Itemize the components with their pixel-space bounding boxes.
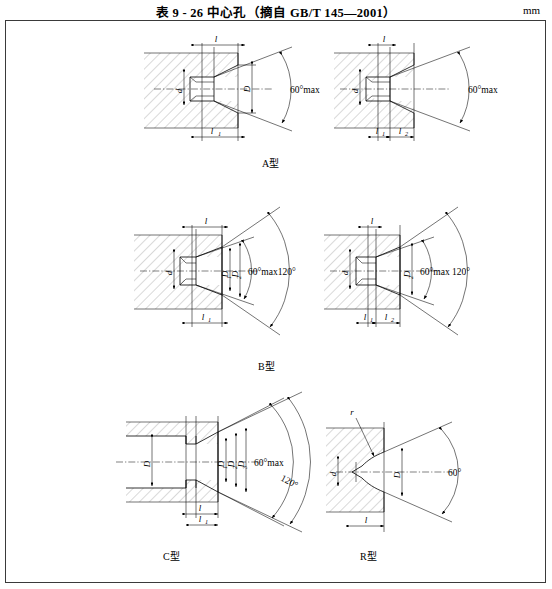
figure-b-left: l l 1 d D 1 D 2 60°max120° — [130, 205, 340, 350]
dimension-l-top-a-left: l — [195, 34, 245, 45]
figure-b-right: l l 1 l 2 d D 2 60°max 120° — [320, 205, 530, 350]
dimension-D2-b-left: D 2 — [230, 247, 242, 297]
dim-sub-l1: 1 — [208, 316, 211, 323]
dim-sub-l1: 1 — [205, 518, 208, 525]
dimension-l1-c-left: l 1 — [190, 514, 218, 525]
dim-sub-l1: 1 — [370, 316, 373, 323]
dimension-l-top-b-right: l — [362, 216, 382, 227]
dim-label-l2: l — [385, 312, 388, 322]
angle-label-c-main: 60°max — [254, 458, 284, 468]
page-title: 表 9 - 26 中心孔（摘自 GB/T 145—2001） — [0, 2, 552, 21]
dim-label-l-top: l — [215, 34, 218, 44]
material-hatching-a-right — [334, 53, 414, 128]
dim-sub-D2: 2 — [235, 276, 242, 279]
table-title-row: 表 9 - 26 中心孔（摘自 GB/T 145—2001） mm — [0, 2, 552, 20]
dim-sub-l1: 1 — [218, 130, 221, 137]
caption-b: B型 — [258, 358, 275, 373]
dim-sub-l2: 2 — [405, 130, 408, 137]
dim-label-l1: l — [199, 514, 202, 524]
angle-label-b-right: 60°max 120° — [420, 267, 470, 277]
dim-label-l-top: l — [383, 34, 386, 44]
dim-label-d: d — [328, 471, 338, 476]
dim-label-d: d — [340, 270, 350, 275]
caption-c: C型 — [163, 548, 180, 563]
dim-sub-l1: 1 — [382, 130, 385, 137]
material-hatching-b-left — [134, 235, 222, 309]
dim-sub-l2: 2 — [391, 316, 394, 323]
angle-label-a-right: 60°max — [468, 85, 498, 95]
dim-label-r: r — [350, 407, 354, 417]
dim-label-D: D — [142, 460, 152, 468]
figure-a-right: l l 1 l 2 d 60°max — [330, 33, 520, 161]
dimension-D2-b-right: D 2 — [402, 247, 414, 295]
angle-label-a-left: 60°max — [290, 85, 320, 95]
unit-label: mm — [523, 4, 540, 16]
dim-label-D: D — [242, 85, 252, 93]
dimension-l-c-left: l — [186, 503, 218, 514]
dimension-D-c-left: D — [142, 438, 152, 486]
dimension-D3-c-left: D 3 — [236, 432, 248, 492]
dim-label-l: l — [199, 503, 202, 513]
figure-a-left: l l 1 d D 60°max — [140, 33, 330, 161]
dimension-l1-b-left: l 1 — [186, 312, 228, 323]
material-hatching-b-right — [324, 235, 400, 309]
dimension-D-r-right: D — [392, 452, 402, 496]
dim-label-d: d — [164, 270, 174, 275]
dim-label-D: D — [392, 471, 402, 479]
dim-sub-D3: 3 — [241, 466, 248, 470]
material-hatching-a-left — [144, 53, 238, 128]
angle-label-b-left: 60°max120° — [248, 267, 296, 277]
caption-a: A型 — [262, 155, 279, 170]
dim-label-l-top: l — [371, 216, 374, 226]
dim-label-l-top: l — [205, 216, 208, 226]
dim-label-l1: l — [202, 312, 205, 322]
figure-c-left: D D 1 D 2 D 3 l l 1 60°max 120° — [112, 390, 327, 545]
dim-label-l: l — [365, 515, 368, 525]
dimension-l-r-right: l — [350, 515, 384, 526]
dimension-l2-b-right: l 2 — [376, 312, 400, 323]
angle-label-r-right: 60° — [448, 468, 462, 478]
dimension-l-top-b-left: l — [186, 216, 228, 227]
dim-label-d: d — [350, 88, 360, 93]
dim-label-l1: l — [364, 312, 367, 322]
figure-r-right: r d D l 60° — [322, 400, 522, 545]
caption-r: R型 — [360, 548, 377, 563]
dim-sub-D2: 2 — [407, 276, 414, 279]
dim-label-d: d — [174, 88, 184, 93]
dimension-l-top-a-right: l — [372, 34, 396, 45]
